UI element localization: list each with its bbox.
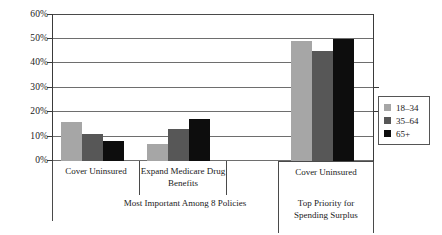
- legend-swatch-icon: [384, 117, 391, 124]
- category-label-expand-medicare: Expand Medicare Drug Benefits: [140, 161, 226, 189]
- legend-item-18-34: 18–34: [384, 101, 424, 114]
- bar-65-plus: [103, 141, 124, 161]
- legend-swatch-icon: [384, 104, 391, 111]
- legend-label: 18–34: [396, 103, 419, 113]
- legend: 18–34 35–64 65+: [378, 96, 430, 145]
- bar-65-plus: [333, 39, 354, 162]
- bar-chart: 60% 50% 40% 30% 20% 10% 0%: [0, 0, 442, 235]
- section-label-top-priority: Top Priority for Spending Surplus: [280, 197, 372, 221]
- legend-label: 35–64: [396, 116, 419, 126]
- bar-group-3: [291, 14, 361, 161]
- legend-swatch-icon: [384, 130, 391, 137]
- category-separator-right: [226, 161, 227, 195]
- category-label-cover-uninsured-1: Cover Uninsured: [53, 161, 139, 178]
- category-label-text: Cover Uninsured: [279, 162, 373, 179]
- legend-label: 65+: [396, 129, 410, 139]
- bar-35-64: [82, 134, 103, 161]
- section-label-text: Most Important Among 8 Policies: [124, 198, 247, 208]
- bar-35-64: [312, 51, 333, 161]
- bar-group-1: [61, 14, 131, 161]
- category-label-cover-uninsured-2: Cover Uninsured: [279, 162, 373, 179]
- section-label-text: Top Priority for Spending Surplus: [294, 198, 358, 220]
- category-label-text: Expand Medicare Drug Benefits: [140, 161, 226, 189]
- bar-18-34: [147, 144, 168, 161]
- section-label-most-important: Most Important Among 8 Policies: [110, 197, 260, 209]
- category-label-text: Cover Uninsured: [53, 161, 139, 178]
- bar-35-64: [168, 129, 189, 161]
- bar-65-plus: [189, 119, 210, 161]
- bar-18-34: [291, 41, 312, 161]
- bar-group-2: [147, 14, 217, 161]
- category-separator-group3-right: [373, 161, 374, 233]
- bar-18-34: [61, 122, 82, 161]
- legend-item-65-plus: 65+: [384, 127, 424, 140]
- legend-item-35-64: 35–64: [384, 114, 424, 127]
